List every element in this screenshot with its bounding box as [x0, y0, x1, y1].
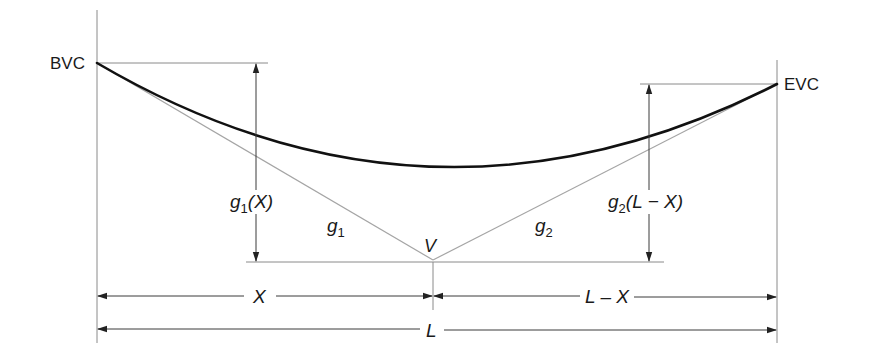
- grade-g1-label: g1: [327, 215, 345, 240]
- vertical-curve: [97, 63, 777, 167]
- vertex-label: V: [424, 236, 438, 256]
- offset-right-suffix: (L − X): [626, 191, 683, 212]
- dimension-lx-label: L – X: [585, 286, 630, 307]
- vertical-curve-diagram: BVC EVC V g1 g2 g1(X) g2(L − X) X L – X …: [0, 0, 875, 356]
- offset-right-subscript: 2: [619, 201, 626, 216]
- grade-g2-label: g2: [535, 215, 553, 240]
- evc-label: EVC: [784, 75, 819, 94]
- grade-g2-subscript: 2: [546, 225, 553, 240]
- tangent-g2: [433, 84, 777, 260]
- dimension-x-label: X: [252, 286, 267, 307]
- grade-g1-subscript: 1: [338, 225, 345, 240]
- offset-right-prefix: g: [608, 191, 619, 212]
- dimension-l-label: L: [426, 320, 437, 341]
- tangent-g1: [97, 63, 433, 260]
- grade-g1-symbol: g: [327, 215, 338, 236]
- offset-left-suffix: (X): [248, 191, 273, 212]
- offset-left-subscript: 1: [241, 201, 248, 216]
- bvc-label: BVC: [50, 54, 85, 73]
- offset-left-prefix: g: [230, 191, 241, 212]
- grade-g2-symbol: g: [535, 215, 546, 236]
